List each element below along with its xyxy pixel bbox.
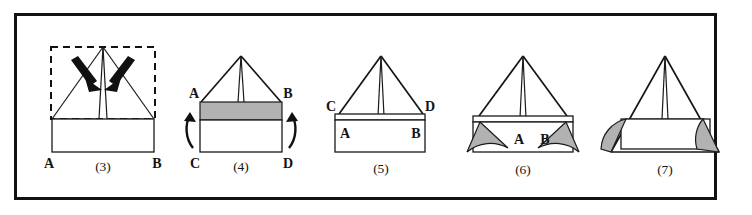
tent-slit-right	[523, 56, 526, 118]
caption-4: (4)	[233, 159, 249, 174]
label-D: D	[425, 99, 435, 114]
tent-left-slope	[339, 56, 381, 114]
label-B: B	[283, 86, 292, 101]
label-B: B	[152, 156, 161, 171]
caption-3: (3)	[95, 159, 111, 174]
arrow-rotate-left	[184, 112, 196, 148]
tent-right-slope	[523, 56, 567, 116]
tent-right-slope	[381, 56, 423, 114]
panel-4: A B C D (4)	[169, 16, 311, 203]
label-A: A	[44, 156, 55, 171]
top-strip	[473, 116, 573, 122]
figure-canvas: A B (3)	[0, 0, 752, 215]
base-rectangle	[52, 119, 154, 152]
panel-3-drawing: A B (3)	[27, 16, 177, 203]
tent-slit-right	[103, 47, 107, 119]
panel-5: C D A B (5)	[309, 16, 451, 203]
tent-slit-left	[238, 56, 241, 102]
tent-slit-left	[99, 47, 103, 119]
shaded-band	[200, 102, 282, 120]
label-B: B	[411, 126, 420, 141]
tent-slit-left	[662, 56, 665, 119]
panel-6: A B (6)	[449, 16, 597, 203]
right-margin	[742, 0, 752, 215]
label-A: A	[340, 126, 351, 141]
figure-frame: A B (3)	[14, 13, 717, 200]
panel-7: (7)	[595, 16, 745, 203]
caption-5: (5)	[373, 161, 389, 176]
label-B: B	[540, 132, 549, 147]
tent-slit-left	[378, 56, 381, 116]
caption-6: (6)	[515, 162, 531, 177]
tent-right-slope	[241, 56, 281, 102]
panel-4-drawing: A B C D (4)	[169, 16, 311, 203]
arrow-rotate-right	[286, 112, 298, 148]
panel-3: A B (3)	[27, 16, 177, 203]
panel-5-drawing: C D A B (5)	[309, 16, 451, 203]
tent-slit-right	[241, 56, 244, 102]
panel-6-drawing: A B (6)	[449, 16, 597, 203]
tent-left-slope	[201, 56, 241, 102]
label-A: A	[514, 132, 525, 147]
label-A: A	[189, 86, 200, 101]
tent-slit-right	[665, 56, 668, 119]
tent-left-slope	[479, 56, 523, 116]
tent-slit-right	[381, 56, 384, 116]
label-D: D	[283, 156, 293, 171]
caption-7: (7)	[657, 162, 673, 177]
base-rectangle	[200, 120, 282, 152]
label-C: C	[190, 156, 200, 171]
top-strip	[335, 114, 425, 120]
panel-7-drawing: (7)	[595, 16, 745, 203]
label-C: C	[326, 99, 336, 114]
tent-slit-left	[520, 56, 523, 118]
